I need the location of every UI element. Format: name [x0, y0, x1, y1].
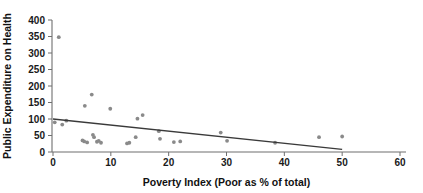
data-point-10 — [92, 135, 96, 139]
data-points-group — [53, 35, 344, 145]
data-point-21 — [158, 137, 162, 141]
x-tick-label-2: 20 — [163, 157, 175, 168]
axis-titles-group: Poverty Index (Poor as % of total)Public… — [1, 13, 310, 188]
x-tick-label-3: 30 — [221, 157, 233, 168]
y-tick-label-8: 400 — [28, 15, 45, 26]
data-point-13 — [99, 141, 103, 145]
y-tick-label-1: 50 — [34, 130, 46, 141]
data-point-16 — [127, 141, 131, 145]
data-point-22 — [172, 140, 176, 144]
y-tick-label-2: 100 — [28, 114, 45, 125]
y-tick-label-0: 0 — [39, 147, 45, 158]
y-axis: 050100150200250300350400 — [28, 15, 52, 158]
y-tick-label-6: 300 — [28, 48, 45, 59]
trend-line — [53, 119, 342, 149]
data-point-25 — [225, 139, 229, 143]
trend-line-group — [53, 119, 342, 149]
data-point-28 — [340, 135, 344, 139]
y-tick-label-7: 350 — [28, 31, 45, 42]
x-tick-label-6: 60 — [394, 157, 406, 168]
data-point-0 — [53, 120, 57, 124]
data-point-24 — [219, 131, 223, 135]
chart-canvas: 050100150200250300350400 0102030405060 P… — [0, 0, 423, 193]
data-point-23 — [178, 140, 182, 144]
x-tick-label-4: 40 — [279, 157, 291, 168]
data-point-8 — [90, 93, 94, 97]
data-point-7 — [85, 141, 89, 145]
y-tick-label-4: 200 — [28, 81, 45, 92]
x-axis: 0102030405060 — [50, 152, 406, 168]
y-tick-label-5: 250 — [28, 64, 45, 75]
x-axis-title: Poverty Index (Poor as % of total) — [143, 176, 310, 188]
data-point-1 — [57, 35, 61, 39]
data-point-14 — [108, 107, 112, 111]
y-axis-title: Public Expenditure on Health — [1, 13, 13, 159]
scatter-chart-figure: 050100150200250300350400 0102030405060 P… — [0, 0, 423, 193]
x-tick-label-1: 10 — [105, 157, 117, 168]
x-tick-label-5: 50 — [337, 157, 349, 168]
data-point-18 — [136, 117, 140, 121]
data-point-17 — [134, 135, 138, 139]
y-tick-label-3: 150 — [28, 97, 45, 108]
data-point-19 — [141, 113, 145, 117]
data-point-2 — [60, 123, 64, 127]
x-tick-label-0: 0 — [50, 157, 56, 168]
data-point-6 — [83, 104, 87, 108]
data-point-27 — [317, 135, 321, 139]
